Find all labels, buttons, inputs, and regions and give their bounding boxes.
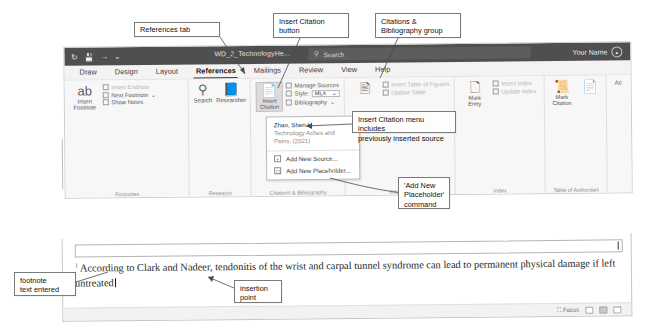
callout-placeholder-command: 'Add New Placeholder' command bbox=[398, 177, 450, 209]
leader-insert-citation bbox=[278, 38, 300, 88]
callout-menu-note: Insert Citation menu includes previously… bbox=[352, 111, 456, 133]
leader-arrowhead-menu bbox=[306, 123, 312, 129]
leader-footnote-text bbox=[76, 272, 108, 282]
callout-references-tab: References tab bbox=[134, 22, 220, 37]
callout-citations-group: Citations & Bibliography group bbox=[375, 13, 461, 38]
callout-insert-citation-button: Insert Citation button bbox=[273, 13, 349, 38]
callout-insertion-point: insertion point bbox=[234, 280, 282, 303]
leader-references-tab bbox=[220, 37, 245, 74]
screenshot-stage: ↻ 💾 → ⌄ WD_2_TechnologyHe... ⚲ Search Yo… bbox=[0, 0, 651, 332]
callout-footnote-text-entered: footnote text entered bbox=[14, 272, 76, 296]
leader-menu-note bbox=[306, 124, 352, 126]
leader-citations-group bbox=[380, 38, 398, 78]
leader-lines bbox=[0, 0, 651, 332]
